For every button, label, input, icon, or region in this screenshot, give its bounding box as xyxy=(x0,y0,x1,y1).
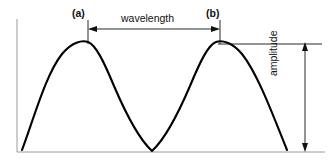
amplitude-arrowhead-bottom xyxy=(302,143,308,152)
wavelength-arrowhead-left xyxy=(88,26,97,32)
wave-diagram-figure: (a) (b) wavelength amplitude xyxy=(0,0,333,165)
peak-a-label: (a) xyxy=(72,8,85,19)
amplitude-arrowhead-top xyxy=(302,42,308,51)
amplitude-label: amplitude xyxy=(268,30,279,76)
wavelength-label: wavelength xyxy=(121,13,174,24)
peak-b-label: (b) xyxy=(206,8,219,19)
wave-curve xyxy=(22,41,287,151)
wavelength-arrowhead-right xyxy=(211,26,220,32)
wave-diagram-canvas xyxy=(0,0,333,165)
